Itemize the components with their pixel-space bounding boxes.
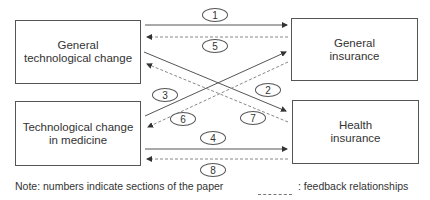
legend-feedback: : feedback relationships bbox=[298, 180, 408, 192]
section-label-3: 3 bbox=[152, 88, 178, 102]
section-label-2: 2 bbox=[255, 83, 281, 97]
section-label-8: 8 bbox=[200, 163, 226, 177]
footnote: Note: numbers indicate sections of the p… bbox=[15, 180, 223, 192]
section-label-1: 1 bbox=[202, 8, 228, 22]
section-label-5: 5 bbox=[202, 39, 228, 53]
legend-dashed-line bbox=[258, 194, 292, 195]
arrow-2 bbox=[144, 52, 286, 111]
section-label-6: 6 bbox=[170, 112, 196, 126]
section-label-4: 4 bbox=[200, 131, 226, 145]
section-label-7: 7 bbox=[240, 111, 266, 125]
